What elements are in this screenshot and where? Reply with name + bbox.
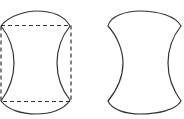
left-shape-with-box: [1, 11, 71, 114]
right-shape: [108, 11, 181, 114]
dashed-bounding-box: [1, 26, 71, 102]
diagram-canvas: [0, 0, 184, 119]
right-concave-shape: [108, 11, 181, 114]
left-concave-shape: [1, 11, 70, 114]
